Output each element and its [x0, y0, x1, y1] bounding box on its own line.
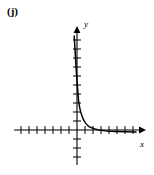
exponential-decay-curve: [74, 36, 136, 132]
figure-panel: (j): [0, 0, 154, 175]
y-axis-arrow-icon: [74, 26, 81, 33]
x-axis-label: x: [139, 139, 144, 149]
y-axis-label: y: [83, 19, 88, 29]
coordinate-plot: x y: [0, 0, 154, 175]
x-axis-arrow-icon: [139, 127, 146, 134]
